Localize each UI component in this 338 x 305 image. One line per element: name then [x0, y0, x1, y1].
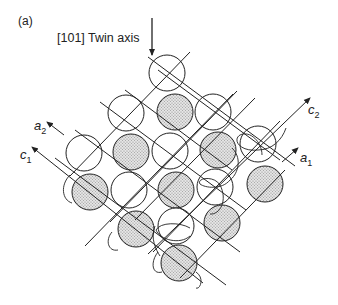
shaded-atom [118, 211, 154, 247]
c2-axis-label: c2 [308, 102, 320, 120]
shaded-atom [204, 205, 240, 241]
open-atom [195, 94, 231, 130]
twin-axis-label: [101] Twin axis [57, 31, 139, 45]
shaded-atom [157, 94, 193, 130]
a1-axis-label: a1 [300, 150, 312, 168]
shaded-atom [247, 166, 283, 202]
a2-axis-arrow [47, 122, 64, 135]
shaded-atom [113, 134, 149, 170]
a2-axis-label: a2 [34, 118, 46, 136]
shaded-atom [158, 172, 194, 208]
panel-label: (a) [18, 14, 33, 28]
shaded-atom [72, 174, 108, 210]
a1-axis-arrow [282, 148, 298, 162]
c1-axis-label: c1 [20, 147, 32, 165]
open-atom [66, 135, 102, 171]
twin-lattice-diagram [0, 0, 338, 305]
